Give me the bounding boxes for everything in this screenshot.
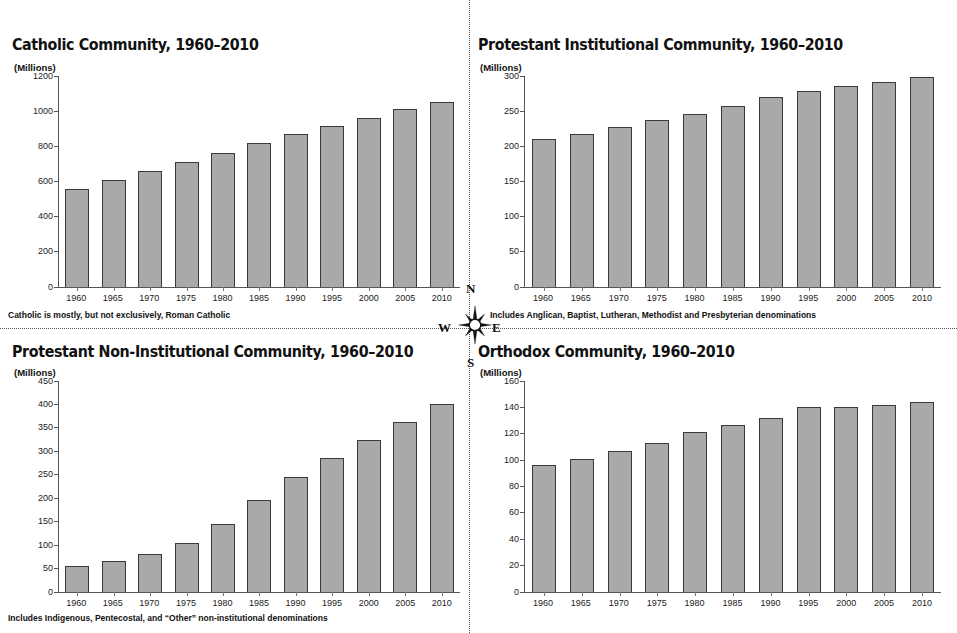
- bar[interactable]: [102, 561, 126, 592]
- bar[interactable]: [175, 543, 199, 592]
- bar[interactable]: [645, 120, 669, 287]
- y-tick-label: 250: [13, 470, 53, 479]
- x-tick-mark: [657, 592, 658, 596]
- x-tick-mark: [77, 592, 78, 596]
- bar[interactable]: [683, 432, 707, 592]
- y-tick-label: 400: [13, 212, 53, 221]
- x-tick-mark: [442, 287, 443, 291]
- bar[interactable]: [357, 440, 381, 592]
- bar[interactable]: [102, 180, 126, 287]
- bar[interactable]: [393, 422, 417, 592]
- axes-protestant-non-institutional: 050100150200250300350400450: [58, 381, 460, 593]
- x-tick-mark: [884, 592, 885, 596]
- bar[interactable]: [320, 126, 344, 287]
- plot-area-protestant-non-institutional: 050100150200250300350400450 196019651970…: [12, 381, 462, 593]
- x-tick-label: 1985: [714, 293, 752, 303]
- bar[interactable]: [608, 127, 632, 287]
- bar[interactable]: [872, 405, 896, 592]
- bar[interactable]: [211, 524, 235, 592]
- bar[interactable]: [834, 86, 858, 287]
- x-tick-label: 1985: [241, 598, 278, 608]
- bar-slot: [59, 76, 95, 287]
- bar[interactable]: [683, 114, 707, 287]
- bar[interactable]: [175, 162, 199, 287]
- x-tick-mark: [114, 287, 115, 291]
- bar[interactable]: [910, 77, 934, 287]
- x-tick-mark: [369, 592, 370, 596]
- x-tick-mark: [582, 287, 583, 291]
- bar[interactable]: [138, 554, 162, 592]
- bar-slot: [638, 381, 676, 592]
- bar[interactable]: [608, 451, 632, 592]
- bar-group-protestant-institutional: [525, 76, 941, 287]
- bar[interactable]: [65, 566, 89, 592]
- y-tick-label: 1200: [13, 72, 53, 81]
- bar[interactable]: [138, 171, 162, 287]
- y-tick-label: 200: [13, 247, 53, 256]
- y-tick-label: 140: [479, 403, 519, 412]
- bar[interactable]: [721, 425, 745, 592]
- axes-catholic: 020040060080010001200: [58, 76, 460, 288]
- x-tick-label: 1995: [789, 598, 827, 608]
- y-tick-label: 100: [13, 541, 53, 550]
- x-tick-labels-catholic: 1960196519701975198019851990199520002005…: [58, 293, 460, 303]
- bar[interactable]: [430, 102, 454, 287]
- bar-slot: [865, 76, 903, 287]
- bar[interactable]: [759, 418, 783, 592]
- compass-rose-icon: [458, 305, 492, 345]
- bar[interactable]: [759, 97, 783, 287]
- y-tick-label: 350: [13, 423, 53, 432]
- bar[interactable]: [532, 465, 556, 592]
- x-tick-mark: [369, 287, 370, 291]
- bar[interactable]: [320, 458, 344, 592]
- bar[interactable]: [430, 404, 454, 592]
- chart-title-orthodox: Orthodox Community, 1960–2010: [478, 343, 734, 361]
- y-tick-label: 120: [479, 429, 519, 438]
- bar[interactable]: [532, 139, 556, 287]
- bar[interactable]: [721, 106, 745, 287]
- bar-slot: [752, 76, 790, 287]
- x-tick-mark: [771, 592, 772, 596]
- x-tick-label: 1965: [95, 598, 132, 608]
- bar-slot: [790, 381, 828, 592]
- bar-slot: [168, 381, 204, 592]
- x-tick-mark: [922, 287, 923, 291]
- bar[interactable]: [872, 82, 896, 287]
- bar[interactable]: [284, 134, 308, 287]
- bar[interactable]: [247, 143, 271, 287]
- y-tick-label: 150: [479, 177, 519, 186]
- bar[interactable]: [797, 91, 821, 287]
- x-tick-label: 1980: [676, 293, 714, 303]
- bar[interactable]: [211, 153, 235, 287]
- compass-label-east: E: [492, 321, 501, 334]
- x-tick-label: 1965: [95, 293, 132, 303]
- x-tick-label: 2010: [423, 598, 460, 608]
- x-tick-label: 2010: [903, 293, 941, 303]
- x-tick-mark: [150, 287, 151, 291]
- y-tick-label: 60: [479, 508, 519, 517]
- footnote-protestant-institutional: Includes Anglican, Baptist, Lutheran, Me…: [490, 310, 816, 320]
- bar[interactable]: [357, 118, 381, 287]
- bar[interactable]: [645, 443, 669, 592]
- x-tick-label: 1975: [168, 598, 205, 608]
- bar[interactable]: [393, 109, 417, 287]
- bar[interactable]: [910, 402, 934, 592]
- x-tick-mark: [296, 287, 297, 291]
- compass-rose: N S W E: [447, 281, 503, 373]
- bar[interactable]: [570, 134, 594, 287]
- x-tick-mark: [544, 592, 545, 596]
- footnote-catholic: Catholic is mostly, but not exclusively,…: [8, 310, 230, 320]
- bar[interactable]: [284, 477, 308, 592]
- bar[interactable]: [65, 189, 89, 287]
- x-tick-mark: [733, 592, 734, 596]
- bar[interactable]: [834, 407, 858, 592]
- bar-slot: [168, 76, 204, 287]
- bar-slot: [525, 76, 563, 287]
- chart-panel-protestant-institutional: Protestant Institutional Community, 1960…: [470, 0, 957, 328]
- x-tick-label: 1960: [58, 598, 95, 608]
- bar[interactable]: [570, 459, 594, 592]
- x-tick-label: 1975: [168, 293, 205, 303]
- bar[interactable]: [797, 407, 821, 592]
- bar[interactable]: [247, 500, 271, 592]
- chart-panel-catholic: Catholic Community, 1960–2010 (Millions)…: [0, 0, 469, 328]
